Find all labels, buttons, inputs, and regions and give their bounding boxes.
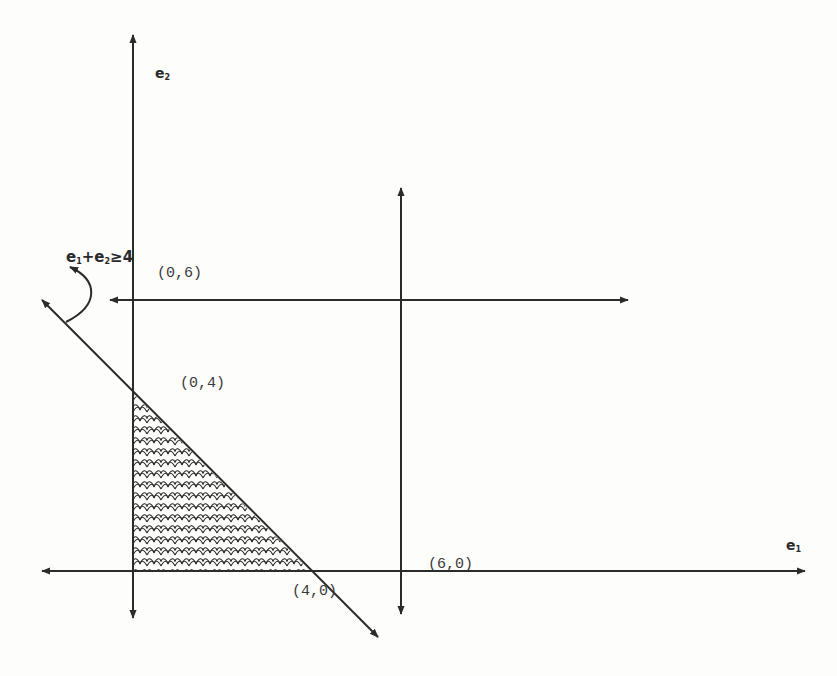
point-label-6-0: (6,0) xyxy=(428,557,473,572)
diagram-canvas: e2 e1 e1+e2≥4 (0,6) (0,4) (4,0) (6,0) xyxy=(0,0,837,676)
constraint-label: e1+e2≥4 xyxy=(66,250,133,266)
feasible-region xyxy=(133,393,310,571)
y-axis-label: e2 xyxy=(155,66,170,82)
constraint-pointer-arrow xyxy=(66,267,91,322)
x-axis-label: e1 xyxy=(786,538,801,554)
diagram-svg xyxy=(0,0,837,676)
point-label-0-6: (0,6) xyxy=(157,266,202,281)
point-label-0-4: (0,4) xyxy=(180,376,225,391)
point-label-4-0: (4,0) xyxy=(292,584,337,599)
